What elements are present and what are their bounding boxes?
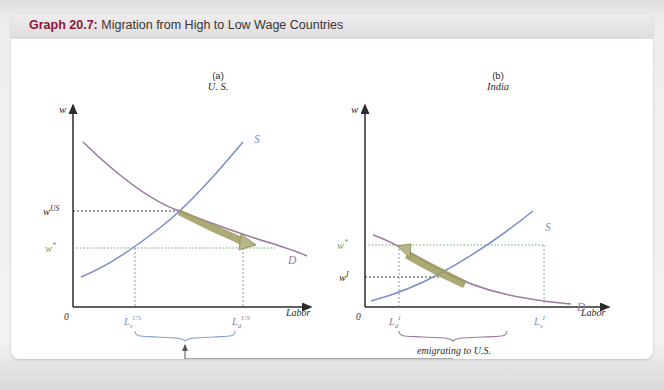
panel-b-ytick1-main: w [339, 272, 346, 283]
panel-b-y-tick-world-wage: w* [337, 238, 348, 251]
panel-b-x-tick-ld: LdI [388, 314, 401, 330]
svg-text:LdUS: LdUS [231, 314, 250, 330]
svg-text:LsI: LsI [533, 314, 546, 330]
panel-a-y-axis-label: w [59, 103, 67, 115]
panel-a-supply-label: S [254, 133, 260, 145]
panel-b-ytick1-sup: I [345, 270, 349, 279]
panel-b-xtick0-sup: I [397, 314, 401, 322]
panel-b-y-tick-wage-india: wI [339, 270, 349, 283]
panel-a-header: (a) U. S. [158, 70, 278, 92]
panel-b-xtick0-sub: d [395, 322, 399, 330]
figure-title: Graph 20.7: Migration from High to Low W… [29, 18, 343, 32]
panel-a-demand-label: D [287, 254, 297, 266]
panel-a-ytick0-main: w [43, 206, 50, 217]
svg-text:wUS: wUS [43, 204, 59, 217]
panel-b-xtick1-sub: s [540, 322, 543, 330]
svg-text:w*: w* [337, 238, 348, 251]
panel-b-migration-arrow [397, 244, 467, 288]
panel-b-supply-curve [371, 211, 533, 301]
panel-b-header: (b) India [438, 70, 558, 92]
panel-b-tag: (b) [438, 70, 558, 81]
cross-panel-connector [185, 345, 453, 359]
panel-a-country: U. S. [158, 81, 278, 92]
figure-canvas: (a) U. S. (b) India w [11, 39, 653, 359]
figure-title-text: Migration from High to Low Wage Countrie… [101, 18, 343, 32]
panel-a-x-tick-ld: LdUS [231, 314, 250, 330]
panel-a-y-tick-wage-us: wUS [43, 204, 59, 217]
panel-b-country: India [438, 81, 558, 92]
panel-b-origin-label: 0 [356, 312, 361, 322]
panel-b-xtick1-sup: I [542, 314, 546, 322]
panel-a: w 0 Labor S D [43, 103, 311, 341]
panel-a-origin-label: 0 [64, 312, 69, 322]
panel-a-y-tick-world-wage: w* [45, 241, 56, 254]
svg-text:LdI: LdI [388, 314, 401, 330]
panel-a-xtick1-sup: US [241, 314, 250, 322]
svg-text:w*: w* [45, 241, 56, 254]
panel-a-x-axis-label: Labor [285, 307, 311, 318]
figure-title-bar: Graph 20.7: Migration from High to Low W… [11, 14, 653, 40]
panel-a-demand-curve [83, 142, 307, 256]
panel-a-ytick1-sup: * [52, 241, 56, 250]
panel-b-brace [399, 331, 507, 341]
svg-text:LsUS: LsUS [123, 314, 142, 330]
panel-b-brace-caption: emigrating to U.S. [417, 345, 491, 356]
panel-b-supply-label: S [545, 221, 551, 233]
figure-label: Graph 20.7: [29, 18, 98, 32]
panel-b-x-tick-ls: LsI [533, 314, 546, 330]
panel-a-tag: (a) [158, 70, 278, 81]
panel-a-xtick0-sub: s [130, 322, 133, 330]
panel-a-xtick1-sub: d [238, 322, 242, 330]
panel-b: w 0 Labor S D [337, 103, 609, 356]
panel-b-ytick0-main: w [337, 240, 344, 251]
panel-b-demand-label: D [576, 301, 586, 313]
panel-a-ytick1-main: w [45, 243, 52, 254]
panel-a-ytick0-sup: US [50, 204, 59, 213]
figure-card: Graph 20.7: Migration from High to Low W… [11, 14, 653, 359]
panel-b-y-axis-label: w [351, 103, 359, 115]
panel-a-migration-arrow [178, 209, 256, 250]
svg-text:wI: wI [339, 270, 349, 283]
panel-a-xtick0-sup: US [133, 314, 142, 322]
panel-b-ytick0-sup: * [344, 238, 348, 247]
panel-a-x-tick-ls: LsUS [123, 314, 142, 330]
panel-a-brace [135, 331, 235, 341]
